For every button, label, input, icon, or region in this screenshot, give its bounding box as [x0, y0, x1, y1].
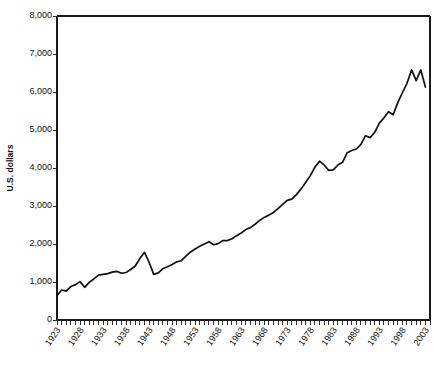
x-tick-label: 1928	[66, 325, 86, 347]
x-tick-label: 1933	[89, 325, 109, 347]
x-tick-label: 1998	[388, 325, 408, 347]
data-series-line	[57, 70, 425, 296]
x-tick-label: 1948	[158, 325, 178, 347]
y-tick-label: 6,000	[29, 86, 52, 96]
y-tick-label: 8,000	[29, 10, 52, 20]
line-chart: 01,0002,0003,0004,0005,0006,0007,0008,00…	[0, 0, 443, 376]
x-tick-label: 1963	[227, 325, 247, 347]
x-tick-label: 1988	[342, 325, 362, 347]
x-axis-tick-labels: 1923192819331938194319481953195819631968…	[43, 325, 431, 347]
x-tick-label: 2003	[411, 325, 431, 347]
x-tick-label: 1978	[296, 325, 316, 347]
y-tick-label: 2,000	[29, 238, 52, 248]
y-tick-label: 3,000	[29, 200, 52, 210]
x-tick-label: 1938	[112, 325, 132, 347]
y-axis-tick-labels: 01,0002,0003,0004,0005,0006,0007,0008,00…	[29, 10, 52, 324]
y-tick-label: 4,000	[29, 162, 52, 172]
x-tick-label: 1923	[43, 325, 63, 347]
x-tick-label: 1943	[135, 325, 155, 347]
x-tick-label: 1983	[319, 325, 339, 347]
y-axis-tick-marks	[53, 16, 57, 320]
x-tick-label: 1958	[204, 325, 224, 347]
y-tick-label: 1,000	[29, 276, 52, 286]
x-tick-label: 1968	[250, 325, 270, 347]
x-tick-label: 1953	[181, 325, 201, 347]
chart-container: 01,0002,0003,0004,0005,0006,0007,0008,00…	[0, 0, 443, 376]
x-tick-label: 1973	[273, 325, 293, 347]
y-axis-title: U.S. dollars	[5, 144, 15, 191]
x-axis-tick-marks	[57, 320, 430, 325]
x-tick-label: 1993	[365, 325, 385, 347]
y-tick-label: 7,000	[29, 48, 52, 58]
y-tick-label: 5,000	[29, 124, 52, 134]
y-tick-label: 0	[47, 314, 52, 324]
